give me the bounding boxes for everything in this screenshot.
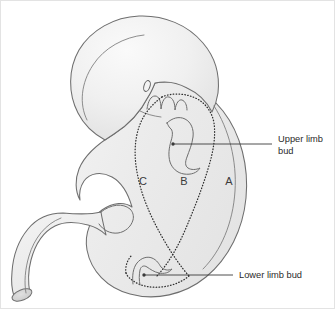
region-letter-c: C (139, 175, 147, 187)
embryo-diagram-svg: C B A Upper limb bud Lower limb bud (1, 1, 335, 309)
upper-limb-bud-label-line2: bud (278, 146, 294, 156)
embryo-body-group (10, 16, 246, 304)
region-letter-b: B (180, 175, 188, 187)
upper-limb-bud-label-line1: Upper limb (278, 134, 323, 144)
lower-limb-bud-label-line1: Lower limb bud (239, 270, 302, 280)
region-letter-a: A (225, 175, 233, 187)
embryo-diagram-figure: C B A Upper limb bud Lower limb bud (0, 0, 335, 309)
